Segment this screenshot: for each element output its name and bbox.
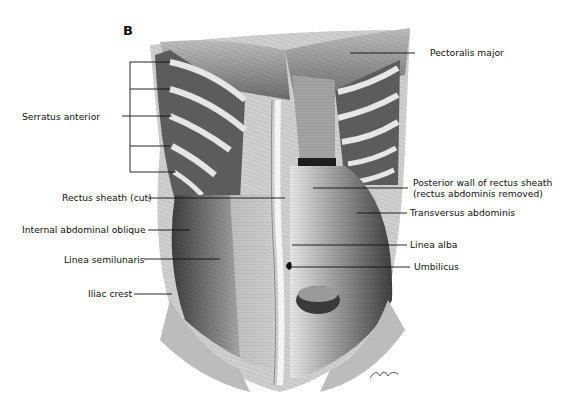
cut-rectus-top — [298, 158, 336, 166]
label-linea-semilunaris: Linea semilunaris — [64, 254, 145, 265]
anatomy-figure: B Serratus anterior Rectus sheath (cut) … — [0, 0, 562, 396]
label-transversus-abdominis: Transversus abdominis — [410, 207, 515, 218]
label-serratus-anterior: Serratus anterior — [22, 111, 100, 122]
label-iliac-crest: Iliac crest — [88, 288, 132, 299]
label-posterior-wall-rectus-sheath: Posterior wall of rectus sheath — [413, 177, 552, 188]
panel-label: B — [123, 23, 133, 38]
label-linea-alba: Linea alba — [410, 239, 457, 250]
label-internal-abdominal-oblique: Internal abdominal oblique — [22, 224, 146, 235]
label-pectoralis-major: Pectoralis major — [430, 47, 504, 58]
label-rectus-abdominis-removed: (rectus abdominis removed) — [413, 188, 543, 199]
artist-signature — [370, 372, 398, 378]
label-umbilicus: Umbilicus — [414, 261, 459, 272]
label-rectus-sheath-cut: Rectus sheath (cut) — [62, 192, 152, 203]
